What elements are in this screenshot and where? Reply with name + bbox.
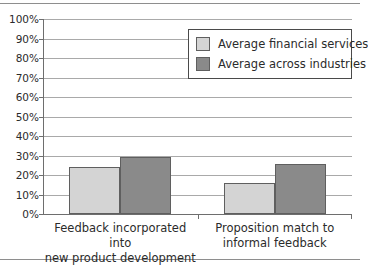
y-axis-tick-label: 80% — [1, 53, 39, 64]
y-axis-tick-label: 10% — [1, 190, 39, 201]
x-axis-category-label-line: Proposition match to — [198, 221, 353, 236]
legend-item-average-across-industries: Average across industries — [196, 55, 366, 73]
y-axis-tick-label: 20% — [1, 170, 39, 181]
figure-top-rule — [0, 3, 360, 4]
x-axis-tick-mark — [198, 214, 199, 219]
x-axis-category-label-line: informal feedback — [198, 236, 353, 251]
bar — [275, 164, 326, 214]
legend-swatch-dark — [196, 57, 210, 71]
x-axis-category-label-line: new product development — [43, 251, 198, 266]
chart-legend: Average financial services Average acros… — [188, 29, 352, 79]
legend-label-average-across-industries: Average across industries — [218, 58, 366, 70]
x-axis-category-label-line: Feedback incorporated into — [43, 221, 198, 251]
bar — [224, 183, 275, 214]
y-axis-tick-label: 50% — [1, 112, 39, 123]
x-axis-category-label: Feedback incorporated intonew product de… — [43, 221, 198, 266]
y-axis-tick-label: 40% — [1, 131, 39, 142]
legend-label-average-financial-services: Average financial services — [218, 38, 368, 50]
x-axis-labels: Feedback incorporated intonew product de… — [43, 221, 352, 259]
y-axis-tick-label: 60% — [1, 92, 39, 103]
x-axis-tick-mark — [351, 214, 352, 219]
y-axis-tick-label: 70% — [1, 73, 39, 84]
y-axis-tick-label: 30% — [1, 151, 39, 162]
bar — [120, 157, 171, 214]
x-axis-category-label: Proposition match toinformal feedback — [198, 221, 353, 251]
legend-swatch-light — [196, 37, 210, 51]
y-axis-tick-label: 90% — [1, 34, 39, 45]
y-axis-tick-label: 100% — [1, 14, 39, 25]
y-axis-ticks: 100%90%80%70%60%50%40%30%20%10%0% — [0, 19, 39, 215]
legend-item-average-financial-services: Average financial services — [196, 35, 368, 53]
y-axis-tick-label: 0% — [1, 209, 39, 220]
bar — [69, 167, 120, 214]
